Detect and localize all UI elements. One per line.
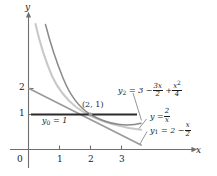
y2-equals: = xyxy=(129,86,136,95)
y0-rhs: 1 xyxy=(62,116,67,125)
y-tick-label-1: 1 xyxy=(19,109,25,118)
y0-equals: = xyxy=(53,116,60,125)
leader-y1 xyxy=(140,132,147,145)
y0-subscript: 0 xyxy=(47,119,51,126)
annotation-y0: y0 = 1 xyxy=(42,117,67,126)
y2-subscript: 2 xyxy=(123,89,127,96)
point-marker-2-1 xyxy=(89,113,93,117)
annotation-y2: y2 = 3 −3x2 +x24 xyxy=(118,80,182,99)
y2-leading-term: 3 xyxy=(138,86,143,95)
y2-fraction-1: 3x2 xyxy=(153,83,163,99)
x-tick-label-1: 1 xyxy=(57,155,63,164)
y2-frac1-denominator: 2 xyxy=(153,90,163,99)
yrec-numerator: 2 xyxy=(164,108,170,116)
y2-frac1-numerator: 3x xyxy=(153,83,163,91)
y-axis-ticks xyxy=(29,89,34,115)
y1-leading-term: 2 xyxy=(170,126,175,135)
plot-svg xyxy=(0,0,217,176)
x-tick-label-2: 2 xyxy=(88,155,94,164)
y-tick-label-2: 2 xyxy=(19,83,25,92)
y1-fraction: x2 xyxy=(185,122,191,138)
y2-frac2-exponent: 2 xyxy=(177,79,181,86)
origin-label: 0 xyxy=(17,155,23,164)
y1-denominator: 2 xyxy=(185,130,191,139)
y1-numerator: x xyxy=(185,122,191,130)
annotation-y1: y1 = 2 −x2 xyxy=(150,122,191,138)
y2-minus: − xyxy=(146,86,153,95)
figure-graph-linearization: y x 0 1 2 3 1 2 (2, 1) y0 = 1 y2 = 3 −3x… xyxy=(0,0,217,176)
y1-subscript: 1 xyxy=(155,128,159,135)
curve-y2-parabola xyxy=(46,25,142,125)
y1-minus: − xyxy=(178,126,185,135)
yrec-equals: = xyxy=(157,112,164,121)
y2-frac2-numerator: x2 xyxy=(172,80,182,90)
y2-frac2-denominator: 4 xyxy=(172,90,182,99)
leader-lines xyxy=(133,93,147,144)
yrec-var: y xyxy=(150,112,155,121)
x-axis-label: x xyxy=(196,146,201,155)
x-tick-label-3: 3 xyxy=(119,155,125,164)
point-label-2-1: (2, 1) xyxy=(82,101,104,109)
x-axis-ticks xyxy=(60,146,122,150)
y1-equals: = xyxy=(161,126,168,135)
y2-fraction-2: x24 xyxy=(172,80,182,99)
y-axis-label: y xyxy=(25,3,30,12)
y2-plus: + xyxy=(165,86,172,95)
